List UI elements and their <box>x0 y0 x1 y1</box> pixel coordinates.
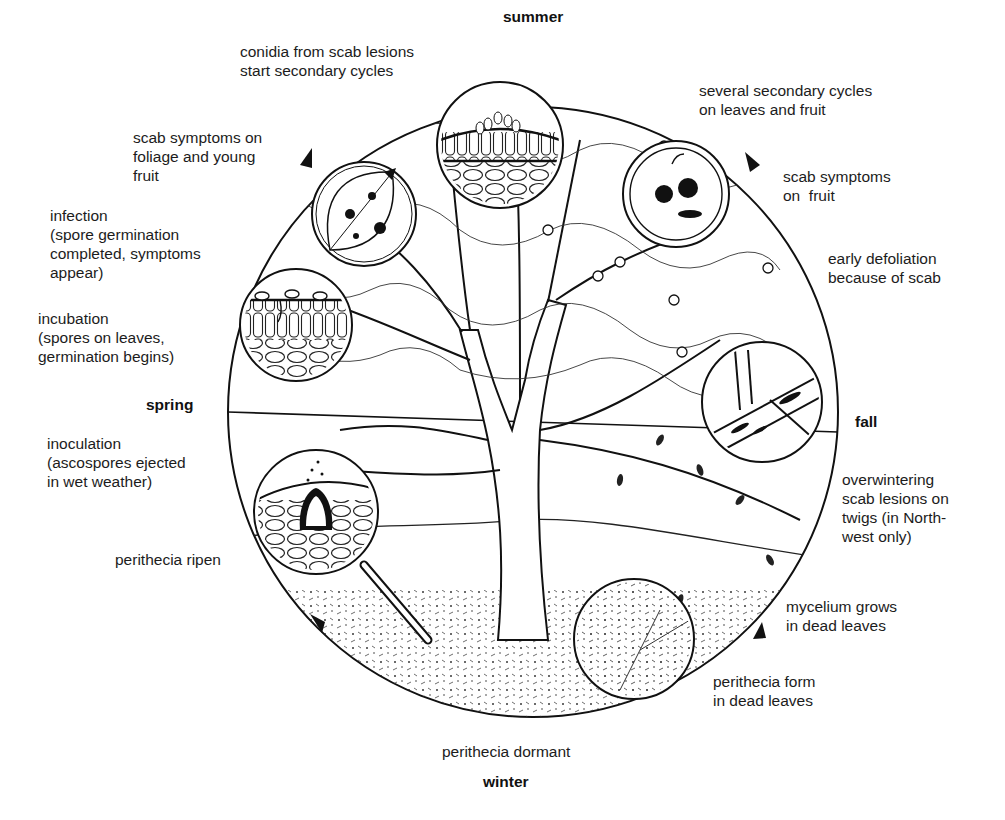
label-perithecia-dormant: perithecia dormant <box>442 742 570 761</box>
dead-leaf-inset <box>574 579 695 700</box>
label-secondary-cycles: several secondary cycles on leaves and f… <box>699 81 872 119</box>
season-winter: winter <box>483 773 529 791</box>
label-overwintering: overwintering scab lesions on twigs (in … <box>842 470 949 546</box>
label-incubation: incubation (spores on leaves, germinatio… <box>38 309 174 366</box>
season-fall: fall <box>855 413 877 431</box>
label-inoculation: inoculation (ascospores ejected in wet w… <box>47 434 186 491</box>
arrow-icon <box>753 622 766 639</box>
label-conidia: conidia from scab lesions start secondar… <box>240 42 414 80</box>
label-perithecia-form: perithecia form in dead leaves <box>713 672 816 710</box>
season-summer: summer <box>503 8 563 26</box>
label-perithecia-ripen: perithecia ripen <box>115 550 221 569</box>
label-symptoms-foliage: scab symptoms on foliage and young fruit <box>133 128 262 185</box>
scab-fruit-inset <box>623 141 729 247</box>
label-symptoms-fruit: scab symptoms on fruit <box>783 167 891 205</box>
arrow-icon <box>300 148 312 168</box>
season-spring: spring <box>146 396 193 414</box>
label-mycelium: mycelium grows in dead leaves <box>786 597 897 635</box>
label-infection: infection (spore germination completed, … <box>50 206 201 282</box>
label-defoliation: early defoliation because of scab <box>828 249 941 287</box>
arrow-icon <box>745 152 760 172</box>
scab-leaf-inset <box>312 162 416 266</box>
incubation-inset <box>240 269 352 381</box>
